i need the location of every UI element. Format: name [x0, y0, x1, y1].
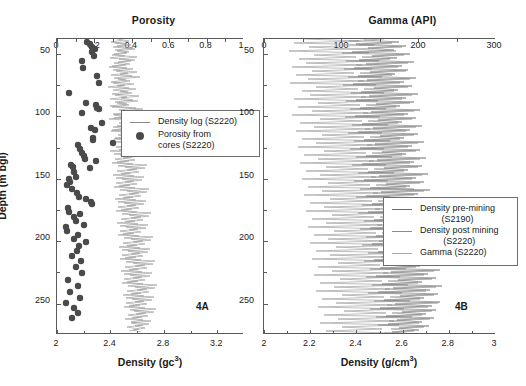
- bottom-tick-label: 2.8: [157, 338, 170, 348]
- density-post-mining-trace: [342, 39, 438, 333]
- axis-tick: [264, 241, 268, 242]
- bottom-tick-label: 2.6: [395, 338, 408, 348]
- axis-tick: [57, 54, 61, 55]
- depth-tick-label: 100: [226, 107, 254, 117]
- panel-4a: Porosity 0 0.2 0.4 0.6 0.8 1 50 100 150 …: [0, 0, 263, 386]
- depth-tick-label: 250: [22, 295, 50, 305]
- depth-tick-label: 200: [22, 232, 50, 242]
- axis-tick-minor: [57, 272, 60, 273]
- axis-tick: [264, 39, 265, 43]
- bottom-tick-label: 2.8: [442, 338, 455, 348]
- depth-tick-label: 250: [226, 295, 254, 305]
- axis-tick: [264, 54, 268, 55]
- axis-tick-minor: [264, 210, 267, 211]
- panel-a-tag: 4A: [196, 301, 209, 312]
- depth-tick-label: 150: [22, 170, 50, 180]
- panel-b-plot-area: [263, 38, 495, 334]
- axis-tick: [217, 330, 218, 334]
- axis-tick-minor: [264, 148, 267, 149]
- depth-tick-label: 150: [226, 170, 254, 180]
- legend-label: Density pre-mining (S2190): [420, 203, 495, 224]
- axis-tick: [110, 330, 111, 334]
- gamma-trace-b: [289, 39, 424, 333]
- axis-tick: [449, 330, 450, 334]
- legend-item: Density log (S2220): [127, 116, 253, 128]
- legend-item: Porosity from cores (S2220): [127, 129, 253, 150]
- bottom-tick-label: 3: [491, 338, 496, 348]
- x-caption-tail: ): [179, 356, 183, 368]
- axis-tick: [418, 39, 419, 43]
- x-caption-text: Density (g/cm: [341, 356, 410, 368]
- axis-tick-minor: [457, 39, 458, 42]
- panel-a-plot-area: [56, 38, 243, 334]
- bottom-tick-label: 2.2: [303, 338, 316, 348]
- axis-tick-minor: [57, 148, 60, 149]
- depth-tick-label: 50: [232, 45, 254, 55]
- axis-tick: [57, 39, 58, 43]
- axis-tick-minor: [264, 85, 267, 86]
- axis-tick-minor: [225, 39, 226, 42]
- axis-tick-minor: [57, 210, 60, 211]
- legend-item: Density pre-mining (S2190): [389, 203, 511, 224]
- axis-tick: [264, 179, 268, 180]
- panel-b-data-layer: [264, 39, 495, 334]
- axis-tick-minor: [380, 39, 381, 42]
- panel-a-legend: Density log (S2220) Porosity from cores …: [121, 110, 260, 157]
- axis-tick-minor: [151, 39, 152, 42]
- axis-tick: [264, 116, 268, 117]
- axis-tick-minor: [333, 331, 334, 334]
- axis-tick-minor: [303, 39, 304, 42]
- panel-a-bottom-axis: [57, 333, 243, 334]
- panel-b-legend: Density pre-mining (S2190) Density post …: [383, 197, 518, 266]
- axis-tick: [310, 330, 311, 334]
- axis-tick: [403, 330, 404, 334]
- depth-tick-label: 200: [226, 232, 254, 242]
- x-caption-text: Density (gc: [118, 356, 175, 368]
- legend-label: Density post mining (S2220): [420, 225, 499, 246]
- axis-tick-minor: [191, 331, 192, 334]
- line-swatch-icon: [127, 117, 153, 128]
- axis-tick: [57, 330, 58, 334]
- axis-tick: [57, 304, 61, 305]
- legend-item: Gamma (S2220): [389, 247, 511, 259]
- depth-axis-caption: Depth (m bgl): [0, 152, 8, 220]
- axis-tick: [164, 330, 165, 334]
- legend-label: Porosity from cores (S2220): [158, 129, 215, 150]
- bottom-tick-label: 2.4: [103, 338, 116, 348]
- bottom-tick-label: 2: [53, 338, 58, 348]
- bottom-tick-label: 2: [261, 338, 266, 348]
- panel-a-title: Porosity: [0, 14, 285, 26]
- panel-a-x-caption: Density (gc3): [118, 354, 182, 368]
- axis-tick-minor: [472, 331, 473, 334]
- bottom-tick-label: 2.4: [349, 338, 362, 348]
- axis-tick: [57, 179, 61, 180]
- panel-b-tag: 4B: [455, 301, 468, 312]
- axis-tick-minor: [426, 331, 427, 334]
- axis-tick: [132, 39, 133, 43]
- panel-b-title: Gamma (API): [263, 14, 526, 26]
- axis-tick-minor: [76, 39, 77, 42]
- axis-tick-minor: [380, 331, 381, 334]
- axis-tick-minor: [137, 331, 138, 334]
- axis-tick: [94, 39, 95, 43]
- axis-tick: [57, 241, 61, 242]
- line-swatch-icon: [389, 248, 415, 259]
- panel-b-x-caption: Density (g/cm3): [341, 354, 418, 368]
- axis-tick-minor: [264, 272, 267, 273]
- axis-tick: [57, 116, 61, 117]
- axis-tick: [169, 39, 170, 43]
- axis-tick: [341, 39, 342, 43]
- line-swatch-icon: [389, 204, 415, 215]
- axis-tick: [264, 304, 268, 305]
- x-caption-tail: ): [414, 356, 418, 368]
- legend-item: Density post mining (S2220): [389, 225, 511, 246]
- axis-tick: [264, 330, 265, 334]
- axis-tick-minor: [84, 331, 85, 334]
- panel-a-data-layer: [57, 39, 243, 334]
- density-log-trace-a: [108, 39, 157, 332]
- line-swatch-icon: [389, 226, 415, 237]
- axis-tick: [207, 39, 208, 43]
- axis-tick-minor: [113, 39, 114, 42]
- legend-label: Gamma (S2220): [420, 247, 487, 258]
- axis-tick-minor: [57, 85, 60, 86]
